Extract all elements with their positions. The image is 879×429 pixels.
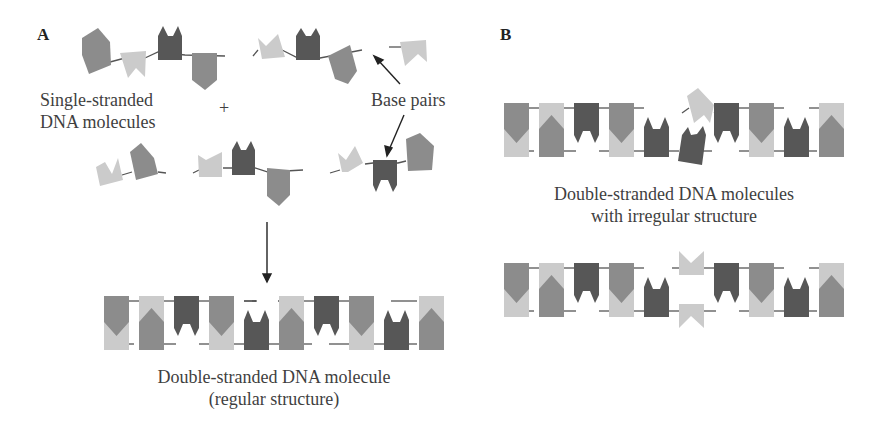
double-strand-irregular-2 bbox=[504, 251, 844, 328]
panel-label-b: B bbox=[500, 25, 511, 45]
double-strand-regular bbox=[104, 296, 444, 350]
irregular-structure-caption-line1: Double-stranded DNA molecules bbox=[504, 183, 844, 205]
single-strand-bottom-right-bases bbox=[338, 133, 434, 192]
base-light-top-right bbox=[400, 40, 427, 66]
double-strand-irregular-1 bbox=[504, 88, 844, 165]
single-stranded-label: Single-stranded DNA molecules bbox=[40, 89, 155, 133]
base-pairs-label: Base pairs bbox=[371, 89, 445, 111]
regular-structure-caption-line2: (regular structure) bbox=[104, 388, 444, 410]
single-strand-top-left-bases bbox=[82, 26, 217, 90]
irregular-structure-caption: Double-stranded DNA molecules with irreg… bbox=[504, 183, 844, 227]
down-arrow bbox=[263, 222, 271, 282]
irregular-structure-caption-line2: with irregular structure bbox=[504, 205, 844, 227]
single-strand-bottom-middle-bases bbox=[198, 141, 290, 206]
plus-sign: + bbox=[219, 97, 229, 119]
single-stranded-label-line2: DNA molecules bbox=[40, 111, 155, 133]
single-stranded-label-line1: Single-stranded bbox=[40, 89, 155, 111]
regular-structure-caption-line1: Double-stranded DNA molecule bbox=[104, 366, 444, 388]
single-strand-bottom-left-bases bbox=[96, 143, 158, 186]
single-strand-top-middle-bases bbox=[258, 28, 357, 84]
panel-label-a: A bbox=[37, 25, 49, 45]
regular-structure-caption: Double-stranded DNA molecule (regular st… bbox=[104, 366, 444, 410]
